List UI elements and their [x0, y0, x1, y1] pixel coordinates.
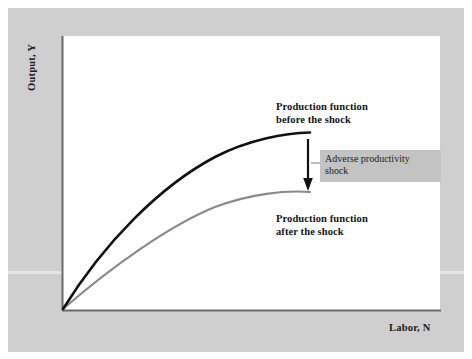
label-before-line-2: before the shock: [276, 114, 351, 125]
x-axis-label: Labor, N: [389, 322, 430, 333]
shock-callout-text: Adverse productivity shock: [325, 153, 443, 177]
y-axis-label: Output, Y: [26, 28, 37, 108]
label-production-function-before: Production function before the shock: [276, 101, 368, 126]
shock-callout-line-2: shock: [325, 165, 348, 176]
label-production-function-after: Production function after the shock: [276, 213, 368, 238]
figure-root: Adverse productivity shock Production fu…: [0, 0, 472, 359]
shock-arrow-head: [303, 178, 313, 191]
label-after-line-1: Production function: [276, 213, 368, 224]
label-before-line-1: Production function: [276, 101, 368, 112]
shock-callout-line-1: Adverse productivity: [325, 153, 410, 164]
curve-after-shock: [63, 192, 310, 309]
label-after-line-2: after the shock: [276, 226, 344, 237]
